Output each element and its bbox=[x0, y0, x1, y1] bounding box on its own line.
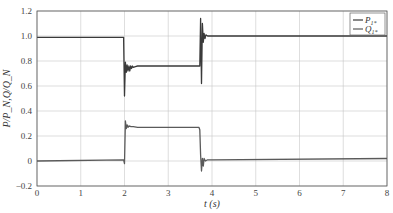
y-tick-label: 1.2 bbox=[21, 6, 32, 16]
legend: P1*Q1* bbox=[350, 13, 385, 35]
y-tick-label: 0.6 bbox=[21, 81, 33, 91]
x-tick-label: 4 bbox=[210, 188, 215, 198]
x-tick-label: 0 bbox=[35, 188, 40, 198]
x-axis-ticks: 012345678 bbox=[35, 188, 390, 198]
y-tick-label: 0.4 bbox=[21, 106, 33, 116]
y-tick-label: 0.8 bbox=[21, 56, 33, 66]
x-tick-label: 3 bbox=[166, 188, 171, 198]
y-tick-label: 0.2 bbox=[21, 131, 32, 141]
x-tick-label: 5 bbox=[254, 188, 259, 198]
y-tick-label: 0 bbox=[28, 156, 33, 166]
x-tick-label: 7 bbox=[341, 188, 346, 198]
line-chart: −0.200.20.40.60.81.01.2 012345678 t (s) … bbox=[0, 0, 393, 213]
x-tick-label: 1 bbox=[79, 188, 84, 198]
x-tick-label: 8 bbox=[385, 188, 390, 198]
y-axis-label: P/P_N,Q/Q_N bbox=[1, 68, 12, 128]
x-tick-label: 2 bbox=[122, 188, 127, 198]
y-axis-ticks: −0.200.20.40.60.81.01.2 bbox=[16, 6, 33, 191]
y-tick-label: 1.0 bbox=[21, 31, 33, 41]
x-axis-label: t (s) bbox=[204, 198, 221, 210]
x-tick-label: 6 bbox=[297, 188, 302, 198]
y-tick-label: −0.2 bbox=[16, 181, 32, 191]
